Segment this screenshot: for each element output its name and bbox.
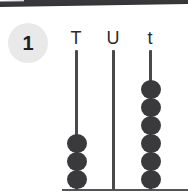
rod-units bbox=[112, 50, 115, 190]
bead bbox=[141, 80, 161, 99]
bead bbox=[141, 134, 161, 153]
bead bbox=[141, 98, 161, 117]
column-label-units: U bbox=[101, 29, 125, 47]
bead bbox=[141, 170, 161, 189]
abacus-worksheet-figure: 1 TUt bbox=[0, 0, 188, 193]
bead bbox=[141, 152, 161, 171]
abacus-base-line bbox=[62, 189, 188, 191]
bead bbox=[67, 152, 87, 171]
abacus: TUt bbox=[0, 0, 188, 193]
column-label-tens: T bbox=[64, 29, 88, 47]
column-label-tenths: t bbox=[138, 29, 162, 47]
bead bbox=[67, 170, 87, 189]
bead bbox=[67, 134, 87, 153]
bead bbox=[141, 116, 161, 135]
